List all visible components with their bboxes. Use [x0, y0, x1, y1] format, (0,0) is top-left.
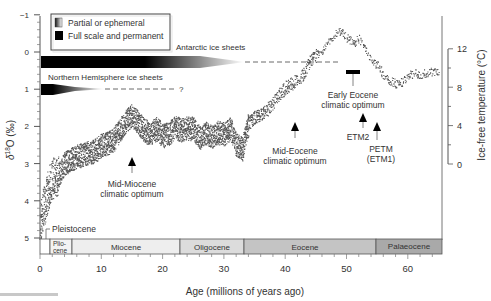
petm-annotation: PETM (ETM1) — [367, 122, 396, 164]
legend-full-swatch — [55, 31, 63, 40]
svg-text:Miocene: Miocene — [111, 243, 142, 252]
svg-text:Mid-Eocene: Mid-Eocene — [272, 146, 318, 156]
northern-hemisphere-ice-sheet-bar: Northern Hemisphere ice sheets ? — [41, 73, 184, 95]
svg-text:Early Eocene: Early Eocene — [328, 90, 379, 100]
svg-text:climatic optimum: climatic optimum — [100, 189, 163, 199]
svg-text:Mid-Miocene: Mid-Miocene — [108, 179, 157, 189]
etm2-annotation: ETM2 — [347, 113, 370, 142]
legend-partial-swatch — [55, 18, 62, 27]
epoch-strip: Plio- cene Miocene Oligocene Eocene Pala… — [40, 239, 442, 254]
svg-text:1: 1 — [25, 85, 30, 94]
x-axis-label: Age (millions of years ago) — [186, 286, 304, 297]
x-axis: 0102030405060 — [37, 254, 432, 274]
northern-label: Northern Hemisphere ice sheets — [48, 73, 163, 82]
svg-text:8: 8 — [457, 83, 462, 93]
svg-text:climatic optimum: climatic optimum — [321, 100, 384, 110]
svg-text:60: 60 — [403, 263, 414, 274]
svg-text:PETM: PETM — [369, 144, 393, 154]
svg-text:0: 0 — [37, 263, 42, 274]
svg-text:climatic optimum: climatic optimum — [263, 156, 326, 166]
svg-text:20: 20 — [157, 263, 168, 274]
svg-text:Plio-: Plio- — [53, 240, 66, 247]
svg-text:50: 50 — [341, 263, 352, 274]
epoch-pleistocene — [40, 239, 50, 254]
legend: Partial or ephemeral Full scale and perm… — [51, 14, 172, 52]
svg-text:0: 0 — [457, 160, 462, 170]
mid-eocene-annotation: Mid-Eocene climatic optimum — [263, 122, 326, 166]
svg-text:Palaeocene: Palaeocene — [388, 242, 431, 251]
svg-text:3: 3 — [25, 160, 30, 169]
svg-text:12: 12 — [457, 44, 467, 54]
y-axis-left: −1012345 — [20, 11, 40, 243]
svg-text:5: 5 — [25, 234, 30, 243]
antarctic-label: Antarctic ice sheets — [176, 43, 245, 52]
svg-text:Pleistocene: Pleistocene — [52, 224, 96, 234]
svg-text:40: 40 — [280, 263, 291, 274]
y-axis-right-temperature: 04812 — [448, 44, 467, 169]
y2-axis-label: Ice-free temperature (°C) — [476, 49, 487, 160]
mid-miocene-annotation: Mid-Miocene climatic optimum — [100, 157, 163, 199]
svg-text:2: 2 — [25, 122, 30, 131]
svg-text:Eocene: Eocene — [291, 243, 319, 252]
svg-text:30: 30 — [219, 263, 230, 274]
footer-rule — [0, 293, 58, 296]
legend-full-label: Full scale and permanent — [68, 31, 164, 41]
y-axis-label: δ18O (‰) — [4, 120, 16, 160]
uncertain-marker: ? — [179, 85, 184, 94]
climate-chart: −1012345 04812 Partial or ephemeral Full… — [0, 0, 491, 301]
svg-text:ETM2: ETM2 — [347, 132, 370, 142]
legend-partial-label: Partial or ephemeral — [68, 18, 145, 28]
svg-text:cene: cene — [53, 247, 67, 254]
svg-text:Oligocene: Oligocene — [194, 243, 231, 252]
early-eocene-optimum-marker: Early Eocene climatic optimum — [321, 70, 384, 110]
svg-text:10: 10 — [96, 263, 107, 274]
svg-text:4: 4 — [457, 121, 462, 131]
pleistocene-annotation: Pleistocene — [46, 224, 96, 240]
svg-text:4: 4 — [25, 197, 30, 206]
svg-text:−1: −1 — [20, 11, 30, 20]
svg-text:(ETM1): (ETM1) — [367, 154, 396, 164]
svg-text:0: 0 — [25, 48, 30, 57]
